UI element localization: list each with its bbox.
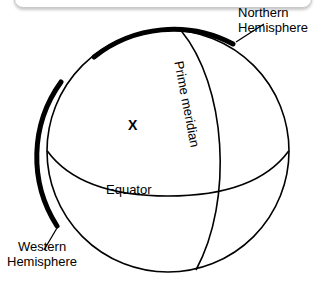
northern-hemisphere-label-line2: Hemisphere	[238, 21, 308, 36]
sphere-outline	[47, 30, 289, 272]
diagram-canvas: Northern Hemisphere Western Hemisphere E…	[0, 0, 321, 284]
northern-hemisphere-label: Northern Hemisphere	[238, 6, 308, 36]
western-hemisphere-label: Western Hemisphere	[7, 240, 77, 270]
equator-label: Equator	[106, 183, 152, 198]
location-marker-x: X	[128, 117, 137, 133]
western-hemisphere-label-line1: Western	[7, 240, 77, 255]
western-hemisphere-label-line2: Hemisphere	[7, 255, 77, 270]
northern-hemisphere-label-line1: Northern	[238, 6, 308, 21]
